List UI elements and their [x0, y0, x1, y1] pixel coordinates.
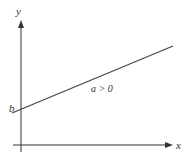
slope-annotation: a > 0 [91, 83, 113, 94]
y-axis-arrow-icon [18, 20, 24, 28]
diagram-canvas: y x b a > 0 [0, 0, 182, 161]
intercept-label: b [9, 102, 15, 114]
linear-function-line [12, 46, 173, 113]
x-axis-arrow-icon [165, 142, 173, 148]
y-axis-label: y [15, 5, 21, 17]
x-axis-label: x [175, 139, 181, 151]
linear-function-diagram: y x b a > 0 [0, 0, 182, 161]
